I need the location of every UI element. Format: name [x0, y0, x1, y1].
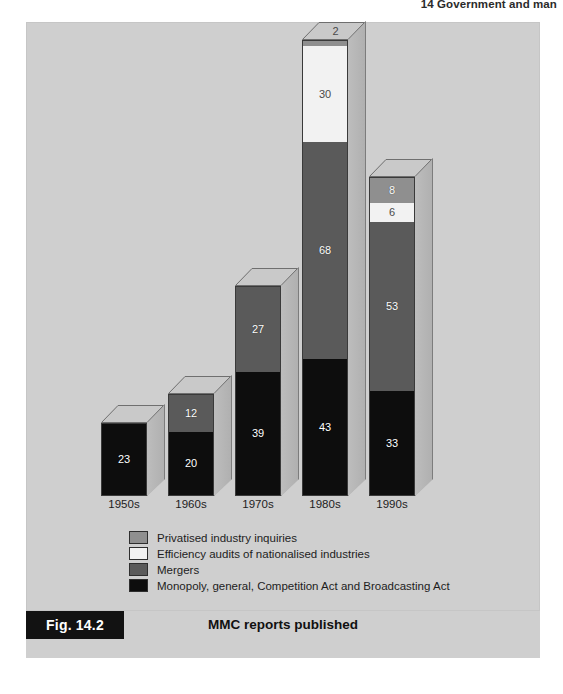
bar-segment-value-label: 53: [386, 301, 398, 312]
bar-segment-value-label: 12: [185, 408, 197, 419]
axis-tick-1960s: 1960s: [159, 498, 223, 510]
bar-segment-mergers: 68: [302, 142, 348, 359]
bar-segment-value-label: 27: [252, 324, 264, 335]
legend-label-mergers: Mergers: [157, 564, 199, 576]
bar-1990s: 865333: [369, 22, 415, 496]
bar-segment-monopoly: 20: [168, 432, 214, 496]
bar-segment-mergers: 12: [168, 394, 214, 432]
bar-segment-value-label: 39: [252, 428, 264, 439]
x-axis-tick-labels: 1950s1960s1970s1980s1990s: [26, 498, 540, 518]
bar-front-stack: 306843: [302, 40, 348, 496]
bar-segment-value-label: 43: [319, 422, 331, 433]
chart-plot-area: 23122027393068432865333: [26, 22, 540, 496]
axis-tick-1950s: 1950s: [92, 498, 156, 510]
legend-item-mergers: Mergers: [129, 562, 529, 577]
running-page-header: 14 Government and man: [367, 0, 557, 12]
axis-tick-1990s: 1990s: [360, 498, 424, 510]
bar-segment-monopoly: 43: [302, 359, 348, 496]
bar-segment-monopoly: 33: [369, 391, 415, 496]
bar-1960s: 1220: [168, 22, 214, 496]
legend-swatch-efficiency: [129, 547, 148, 560]
bar-segment-mergers: 27: [235, 286, 281, 372]
bar-top-face-value-label: 2: [302, 22, 365, 40]
bar-segment-monopoly: 39: [235, 372, 281, 496]
bar-front-stack: 1220: [168, 394, 214, 496]
axis-tick-1970s: 1970s: [226, 498, 290, 510]
legend-swatch-mergers: [129, 563, 148, 576]
figure-title: MMC reports published: [26, 617, 540, 632]
bar-side-face: [415, 158, 433, 496]
legend-label-monopoly: Monopoly, general, Competition Act and B…: [157, 580, 450, 592]
bar-segment-mergers: 53: [369, 222, 415, 391]
axis-tick-1980s: 1980s: [293, 498, 357, 510]
legend-item-monopoly: Monopoly, general, Competition Act and B…: [129, 578, 529, 593]
bar-segment-efficiency: 30: [302, 46, 348, 142]
bar-segment-efficiency: 6: [369, 203, 415, 222]
legend-label-privatised: Privatised industry inquiries: [157, 532, 297, 544]
body-text-fragment: [30, 676, 550, 692]
bar-side-face: [281, 267, 299, 496]
figure-caption-strip: Fig. 14.2 MMC reports published: [26, 611, 540, 658]
bar-1980s: 3068432: [302, 22, 348, 496]
bar-segment-value-label: 8: [389, 185, 395, 196]
bar-segment-value-label: 68: [319, 245, 331, 256]
legend-label-efficiency: Efficiency audits of nationalised indust…: [157, 548, 370, 560]
bar-1950s: 23: [101, 22, 147, 496]
bar-front-stack: 23: [101, 423, 147, 496]
legend-item-efficiency: Efficiency audits of nationalised indust…: [129, 546, 529, 561]
legend-swatch-monopoly: [129, 579, 148, 592]
bar-segment-monopoly: 23: [101, 423, 147, 496]
legend-swatch-privatised: [129, 531, 148, 544]
bar-segment-value-label: 6: [389, 207, 395, 218]
bar-segment-value-label: 20: [185, 458, 197, 469]
bar-segment-value-label: 30: [319, 89, 331, 100]
bar-segment-privatised: 8: [369, 177, 415, 203]
bar-1970s: 2739: [235, 22, 281, 496]
bar-side-face: [214, 375, 232, 496]
figure-panel: 23122027393068432865333 1950s1960s1970s1…: [26, 22, 540, 611]
bar-front-stack: 2739: [235, 286, 281, 496]
bar-segment-value-label: 33: [386, 438, 398, 449]
chart-legend: Privatised industry inquiriesEfficiency …: [129, 530, 529, 594]
bar-front-stack: 865333: [369, 177, 415, 496]
legend-item-privatised: Privatised industry inquiries: [129, 530, 529, 545]
bar-side-face: [348, 21, 366, 496]
bar-segment-value-label: 23: [118, 454, 130, 465]
